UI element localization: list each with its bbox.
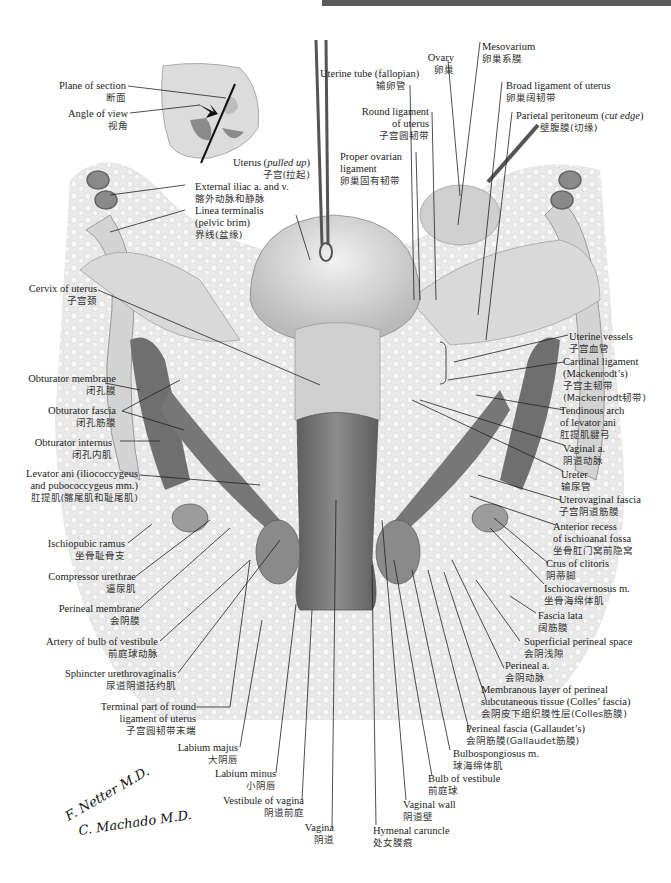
label-obturator-internus: Obturator internus闭孔内肌 xyxy=(0,437,112,461)
label-fascia-lata: Fascia lata阔筋膜 xyxy=(538,610,583,634)
label-compressor-urethrae: Compressor urethrae逼尿肌 xyxy=(0,571,136,595)
inset-diagram xyxy=(128,63,259,163)
label-sphincter-urethrovaginalis: Sphincter urethrovaginalis尿道阴道括约肌 xyxy=(0,668,176,692)
label-angle-of-view: Angle of view视角 xyxy=(38,108,128,132)
label-proper-ovarian-ligament: Proper ovarianligament卵巢固有韧带 xyxy=(340,151,402,187)
label-plane-of-section: Plane of section断面 xyxy=(38,80,126,104)
label-anterior-recess: Anterior recessof ischioanal fossa坐骨肛门窝前… xyxy=(553,521,633,557)
label-ovary: Ovary卵巢 xyxy=(420,52,454,76)
label-round-ligament: Round ligamentof uterus子宫圆韧带 xyxy=(344,106,429,142)
label-perineal-artery: Perineal a.会阴动脉 xyxy=(505,660,549,684)
label-perineal-membrane: Perineal membrane会阴膜 xyxy=(0,603,140,627)
label-mesovarium: Mesovarium卵巢系膜 xyxy=(482,41,535,65)
label-tendinous-arch: Tendinous archof levator ani肛提肌腱弓 xyxy=(560,405,624,441)
label-colles-fascia: Membranous layer of perinealsubcutaneous… xyxy=(481,684,630,720)
label-superficial-perineal-space: Superficial perineal space会阴浅隙 xyxy=(524,636,632,660)
label-hymenal-caruncle: Hymenal caruncle处女膜痕 xyxy=(373,825,450,849)
label-cervix: Cervix of uterus子宫颈 xyxy=(0,283,97,307)
label-vaginal-wall: Vaginal wall阴道壁 xyxy=(403,799,456,823)
label-cardinal-ligament: Cardinal ligament(Mackenrodt’s)子宫主韧带(Mac… xyxy=(563,356,646,404)
label-uterovaginal-fascia: Uterovaginal fascia子宫阴道筋膜 xyxy=(559,494,641,518)
label-crus-of-clitoris: Crus of clitoris阴蒂脚 xyxy=(546,558,609,582)
label-parietal-peritoneum: Parietal peritoneum (cut edge)壁腹膜(切缘) xyxy=(516,110,643,134)
label-labium-majus: Labium majus大阴唇 xyxy=(0,742,238,766)
label-obturator-fascia: Obturator fascia闭孔筋膜 xyxy=(0,405,116,429)
label-linea-terminalis: Linea terminalis(pelvic brim)界线(盆缘) xyxy=(195,205,264,241)
label-uterine-vessels: Uterine vessels子宫血管 xyxy=(569,331,633,355)
label-uterine-tube: Uterine tube (fallopian)输卵管 xyxy=(320,68,406,92)
label-ureter: Ureter输尿管 xyxy=(561,469,591,493)
label-bulb-of-vestibule: Bulb of vestibule前庭球 xyxy=(428,773,500,797)
label-perineal-fascia: Perineal fascia (Gallaudet’s)会阴筋膜(Gallau… xyxy=(466,723,585,747)
label-ischiopubic-ramus: Ischiopubic ramus坐骨耻骨支 xyxy=(0,538,125,562)
label-uterus: Uterus (pulled up)子宫(拉起) xyxy=(200,157,310,181)
label-bulbospongiosus: Bulbospongiosus m.球海绵体肌 xyxy=(453,748,539,772)
label-levator-ani: Levator ani (iliococcygeusand pubococcyg… xyxy=(0,468,138,504)
label-external-iliac: External iliac a. and v.髂外动脉和静脉 xyxy=(195,181,289,205)
label-vaginal-artery: Vaginal a.阴道动脉 xyxy=(563,443,605,467)
label-obturator-membrane: Obturator membrane闭孔膜 xyxy=(0,373,116,397)
label-broad-ligament: Broad ligament of uterus卵巢阔韧带 xyxy=(506,80,611,104)
label-ischiocavernosus: Ischiocavernosus m.坐骨海绵体肌 xyxy=(544,583,630,607)
label-artery-bulb-vestibule: Artery of bulb of vestibule前庭球动脉 xyxy=(0,636,158,660)
label-terminal-round-ligament: Terminal part of roundligament of uterus… xyxy=(0,701,196,737)
label-vagina: Vagina阴道 xyxy=(0,822,334,846)
